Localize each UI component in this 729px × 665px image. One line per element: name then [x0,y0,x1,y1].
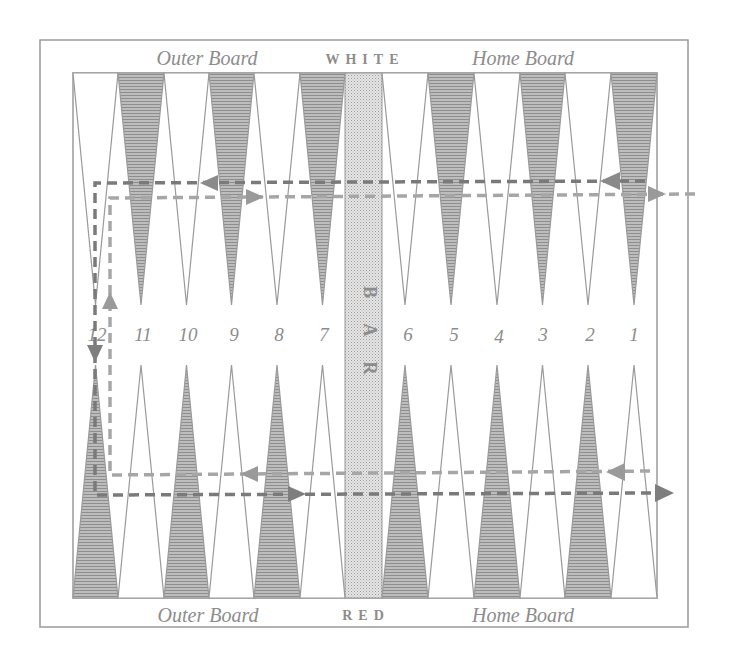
point-number-1: 1 [629,324,639,345]
bottom-center-label: RED [342,608,390,623]
point-number-4: 4 [494,326,504,347]
point-number-8: 8 [274,324,284,345]
point-number-3: 3 [537,324,548,345]
point-number-7: 7 [319,324,330,345]
svg-text:A: A [360,324,380,337]
bottom-right-label: Home Board [471,604,575,626]
point-number-10: 10 [179,324,199,345]
point-number-9: 9 [229,324,239,345]
bottom-left-label: Outer Board [158,604,260,626]
top-right-label: Home Board [471,47,575,69]
backgammon-board-diagram: Outer Board WHITE Home Board B A R [0,0,729,665]
point-number-12: 12 [88,324,108,345]
top-left-label: Outer Board [157,47,259,69]
point-number-11: 11 [134,324,152,345]
svg-text:R: R [360,362,380,376]
point-number-2: 2 [585,324,595,345]
point-number-6: 6 [403,324,413,345]
svg-text:B: B [360,286,380,298]
top-center-label: WHITE [325,52,404,67]
point-number-5: 5 [449,324,459,345]
